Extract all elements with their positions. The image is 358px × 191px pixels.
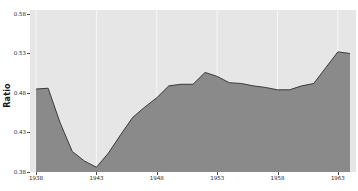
- y-axis-label: Ratio: [0, 0, 14, 191]
- x-tick-mark: [36, 172, 37, 175]
- area-chart-svg: [30, 10, 356, 172]
- x-tick-label: 1948: [137, 175, 177, 181]
- x-tick-mark: [157, 172, 158, 175]
- x-tick-mark: [278, 172, 279, 175]
- x-tick-label: 1953: [197, 175, 237, 181]
- area-fill-path: [36, 52, 350, 172]
- x-tick-label: 1958: [258, 175, 298, 181]
- x-tick-label: 1943: [76, 175, 116, 181]
- x-tick-mark: [338, 172, 339, 175]
- x-tick-label: 1963: [318, 175, 358, 181]
- plot-area: [30, 10, 356, 172]
- x-tick-label: 1938: [16, 175, 56, 181]
- y-tick-mark: [27, 172, 30, 173]
- x-tick-mark: [217, 172, 218, 175]
- x-tick-mark: [96, 172, 97, 175]
- chart-figure: Ratio 0.380.430.480.530.58 1938194319481…: [0, 0, 358, 191]
